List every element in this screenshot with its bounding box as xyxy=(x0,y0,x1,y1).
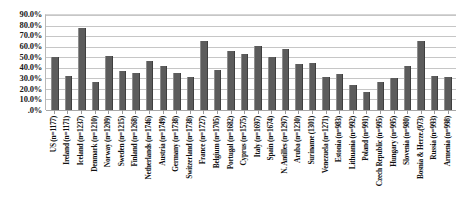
bar xyxy=(146,61,153,110)
bar xyxy=(65,76,72,110)
x-label-cell: Norway (n=1209) xyxy=(101,116,115,216)
x-axis-ticks xyxy=(45,110,456,114)
x-label-cell: Venezuela (n=1271) xyxy=(319,116,333,216)
x-label-cell: Czech Republic (n=995) xyxy=(373,116,387,216)
x-tick-label: Germany (n=1738) xyxy=(172,116,179,172)
x-tick xyxy=(265,110,279,114)
x-tick-label: Finland (n=1268) xyxy=(132,116,139,167)
y-tick-label: 70.0% xyxy=(20,31,42,40)
y-axis: 90.0%80.0%70.0%60.0%50.0%40.0%30.0%20.0%… xyxy=(0,14,44,110)
x-tick-label: N. Antilles (n=1297) xyxy=(281,116,288,174)
bar-chart: 90.0%80.0%70.0%60.0%50.0%40.0%30.0%20.0%… xyxy=(0,0,459,216)
x-tick xyxy=(142,110,156,114)
x-tick-label: Portugal (n=1682) xyxy=(227,116,234,169)
x-tick-label: Austria (n=1749) xyxy=(159,116,166,166)
bar-slot xyxy=(374,15,388,110)
bar xyxy=(363,92,370,110)
x-tick-label: Estonia (n=983) xyxy=(336,116,343,162)
bar xyxy=(227,51,234,110)
x-tick-label: Ireland (n=1171) xyxy=(64,116,71,165)
bar xyxy=(119,71,126,110)
x-tick xyxy=(346,110,360,114)
bar-slot xyxy=(428,15,442,110)
bar xyxy=(173,73,180,110)
x-axis-labels: US (n=1177)Ireland (n=1171)Iceland (n=12… xyxy=(45,116,456,216)
bar xyxy=(282,49,289,110)
bar-slot xyxy=(414,15,428,110)
x-tick-label: Norway (n=1209) xyxy=(104,116,111,167)
x-tick xyxy=(387,110,401,114)
x-label-cell: Sweden (n=1215) xyxy=(115,116,129,216)
bar-slot xyxy=(129,15,143,110)
bar-slot xyxy=(279,15,293,110)
bar-slot xyxy=(143,15,157,110)
bar xyxy=(51,57,58,110)
x-tick xyxy=(169,110,183,114)
x-tick-label: Venezuela (n=1271) xyxy=(322,116,329,173)
x-label-cell: Belgium (n=1705) xyxy=(210,116,224,216)
x-tick xyxy=(278,110,292,114)
x-tick-label: France (n=1727) xyxy=(200,116,207,164)
y-tick-label: 60.0% xyxy=(20,42,42,51)
x-label-cell: Ireland (n=1171) xyxy=(61,116,75,216)
y-tick-label: 10.0% xyxy=(20,95,42,104)
x-tick-label: Czech Republic (n=995) xyxy=(376,116,383,186)
x-tick xyxy=(251,110,265,114)
x-tick xyxy=(115,110,129,114)
bar xyxy=(309,63,316,111)
x-label-cell: Germany (n=1738) xyxy=(169,116,183,216)
x-label-cell: Spain (n=1674) xyxy=(265,116,279,216)
x-tick xyxy=(47,110,61,114)
x-label-cell: Portugal (n=1682) xyxy=(224,116,238,216)
x-label-cell: Estonia (n=983) xyxy=(332,116,346,216)
bar xyxy=(132,73,139,110)
bar-slot xyxy=(441,15,455,110)
bar-slot xyxy=(157,15,171,110)
bar-slot xyxy=(75,15,89,110)
bar-slot xyxy=(170,15,184,110)
bar-slot xyxy=(62,15,76,110)
bar-slot xyxy=(116,15,130,110)
bar-slot xyxy=(89,15,103,110)
bar xyxy=(92,82,99,111)
bar xyxy=(322,77,329,110)
x-tick-label: Belgium (n=1705) xyxy=(213,116,220,168)
x-tick-label: Aruba (n=1230) xyxy=(295,116,302,163)
x-label-cell: Russia (n=993) xyxy=(428,116,442,216)
x-label-cell: Lithuania (n=992) xyxy=(346,116,360,216)
bar-slot xyxy=(265,15,279,110)
x-tick xyxy=(360,110,374,114)
x-tick xyxy=(332,110,346,114)
x-tick-label: Italy (n=1697) xyxy=(254,116,261,157)
x-tick-label: Lithuania (n=992) xyxy=(349,116,356,169)
bar-slot xyxy=(319,15,333,110)
x-tick-label: Bosnia & Herze.(973) xyxy=(417,116,424,179)
x-tick xyxy=(400,110,414,114)
bar-slot xyxy=(333,15,347,110)
y-tick-label: 20.0% xyxy=(20,84,42,93)
bar xyxy=(377,82,384,111)
bar-slot xyxy=(211,15,225,110)
x-tick xyxy=(428,110,442,114)
bar xyxy=(295,64,302,110)
y-tick-label: 50.0% xyxy=(20,52,42,61)
bar-slot xyxy=(184,15,198,110)
bar xyxy=(431,76,438,110)
bar-slot xyxy=(387,15,401,110)
x-label-cell: Iceland (n=1237) xyxy=(74,116,88,216)
x-label-cell: Denmark (n=1210) xyxy=(88,116,102,216)
x-tick-label: Spain (n=1674) xyxy=(268,116,275,160)
x-label-cell: Finland (n=1268) xyxy=(129,116,143,216)
x-label-cell: Bosnia & Herze.(973) xyxy=(414,116,428,216)
x-tick-label: Armenia (n=998) xyxy=(444,116,451,166)
bar xyxy=(268,57,275,110)
x-label-cell: Slovenia (n=980) xyxy=(400,116,414,216)
x-tick xyxy=(183,110,197,114)
x-label-cell: Suriname (1301) xyxy=(305,116,319,216)
x-label-cell: Armenia (n=998) xyxy=(441,116,455,216)
x-label-cell: Netherlands (n=1746) xyxy=(142,116,156,216)
x-tick xyxy=(101,110,115,114)
x-tick xyxy=(373,110,387,114)
x-tick-label: Suriname (1301) xyxy=(308,116,315,165)
bar xyxy=(241,54,248,110)
